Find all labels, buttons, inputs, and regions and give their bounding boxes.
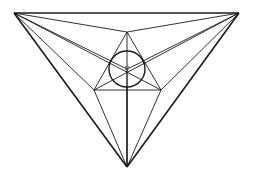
vertex-to-circle-line xyxy=(14,13,111,61)
inner-triangle xyxy=(94,32,161,90)
vertex-to-circle-line xyxy=(143,13,239,61)
geometric-diagram xyxy=(0,0,253,177)
